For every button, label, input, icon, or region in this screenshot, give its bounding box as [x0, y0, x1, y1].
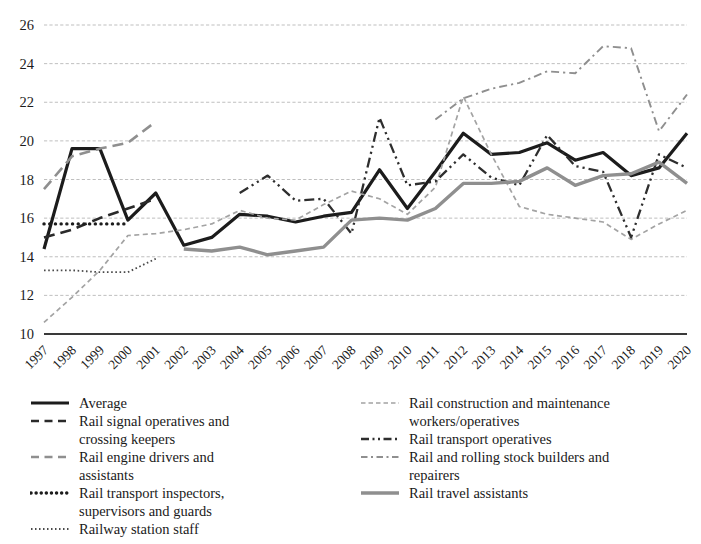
x-tick-label: 2010 — [385, 342, 415, 372]
legend-swatch-rail-travel-assistants-icon — [360, 487, 400, 499]
y-tick-label: 20 — [20, 133, 35, 149]
x-tick-label: 2001 — [133, 343, 163, 373]
y-tick-label: 22 — [20, 94, 35, 110]
legend-label: Rail transport inspectors, supervisors a… — [79, 484, 259, 520]
x-tick-label: 2009 — [357, 342, 387, 372]
legend-swatch-rail-transport-operatives-icon — [360, 433, 400, 445]
y-tick-label: 16 — [20, 210, 35, 226]
x-tick-label: 2018 — [609, 342, 639, 372]
x-tick-label: 2020 — [664, 342, 694, 372]
legend-swatch-rail-transport-inspectors-supervisors-and-guards-icon — [30, 487, 70, 499]
legend-label: Railway station staff — [79, 520, 199, 538]
x-tick-label: 2015 — [525, 342, 555, 372]
x-tick-label: 2013 — [469, 342, 499, 372]
legend-item-rail-travel-assistants: Rail travel assistants — [360, 484, 654, 502]
legend-swatch-average-icon — [30, 397, 70, 409]
x-tick-label: 2008 — [329, 342, 359, 372]
legend-swatch-railway-station-staff-icon — [30, 523, 70, 535]
legend-item-rail-transport-inspectors-supervisors-and-guards: Rail transport inspectors, supervisors a… — [30, 484, 360, 520]
legend-label: Rail and rolling stock builders and repa… — [409, 448, 654, 484]
legend-swatch-rail-engine-drivers-and-assistants-icon — [30, 451, 70, 463]
x-tick-label: 2000 — [105, 342, 135, 372]
x-tick-label: 2014 — [497, 342, 527, 372]
y-tick-label: 10 — [20, 326, 35, 342]
legend-item-rail-transport-operatives: Rail transport operatives — [360, 430, 654, 448]
legend-swatch-rail-signal-operatives-and-crossing-keepers-icon — [30, 415, 70, 427]
y-tick-label: 14 — [20, 249, 35, 265]
y-tick-label: 24 — [20, 56, 35, 72]
legend-item-rail-signal-operatives-and-crossing-keepers: Rail signal operatives and crossing keep… — [30, 412, 360, 448]
legend-swatch-rail-construction-and-maintenance-workers-operatives-icon — [360, 397, 400, 409]
line-chart: 1012141618202224261997199819992000200120… — [0, 0, 701, 390]
x-tick-label: 2019 — [636, 342, 666, 372]
legend-label: Average — [79, 394, 127, 412]
legend-item-railway-station-staff: Railway station staff — [30, 520, 360, 538]
x-tick-label: 1998 — [49, 342, 79, 372]
legend: AverageRail signal operatives and crossi… — [0, 390, 701, 538]
x-tick-label: 1997 — [21, 342, 51, 372]
series-line-average — [44, 133, 687, 249]
y-tick-label: 12 — [20, 287, 35, 303]
x-tick-label: 2004 — [217, 342, 247, 372]
series-line-rail-travel-assistants — [184, 162, 687, 255]
rail-pay-line-chart-figure: 1012141618202224261997199819992000200120… — [0, 0, 701, 544]
x-tick-label: 1999 — [77, 342, 107, 372]
legend-column-right: Rail construction and maintenance worker… — [360, 394, 654, 538]
legend-item-rail-and-rolling-stock-builders-and-repairers: Rail and rolling stock builders and repa… — [360, 448, 654, 484]
x-tick-label: 2002 — [161, 343, 191, 373]
series-line-rail-and-rolling-stock-builders-and-repairers — [435, 46, 687, 131]
x-tick-label: 2003 — [189, 342, 219, 372]
legend-swatch-rail-and-rolling-stock-builders-and-repairers-icon — [360, 451, 400, 463]
x-tick-label: 2017 — [581, 342, 611, 372]
x-tick-label: 2006 — [273, 342, 303, 372]
legend-label: Rail travel assistants — [409, 484, 528, 502]
legend-item-rail-construction-and-maintenance-workers-operatives: Rail construction and maintenance worker… — [360, 394, 654, 430]
legend-label: Rail transport operatives — [409, 430, 552, 448]
x-tick-label: 2007 — [301, 342, 331, 372]
legend-label: Rail construction and maintenance worker… — [409, 394, 654, 430]
legend-item-average: Average — [30, 394, 360, 412]
x-tick-label: 2005 — [245, 342, 275, 372]
legend-label: Rail engine drivers and assistants — [79, 448, 259, 484]
x-tick-label: 2016 — [553, 342, 583, 372]
x-tick-label: 2012 — [441, 343, 471, 373]
legend-column-left: AverageRail signal operatives and crossi… — [30, 394, 360, 538]
legend-label: Rail signal operatives and crossing keep… — [79, 412, 259, 448]
x-tick-label: 2011 — [413, 343, 442, 372]
legend-item-rail-engine-drivers-and-assistants: Rail engine drivers and assistants — [30, 448, 360, 484]
y-tick-label: 26 — [20, 17, 35, 33]
y-tick-label: 18 — [20, 172, 35, 188]
